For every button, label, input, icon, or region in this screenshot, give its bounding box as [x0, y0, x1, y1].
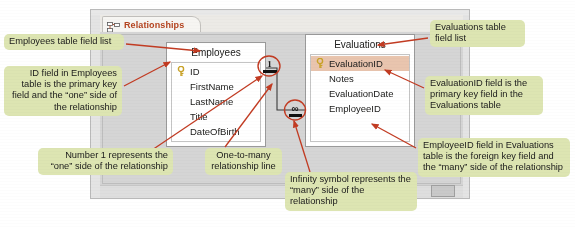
- relationships-icon: [107, 19, 120, 30]
- primary-key-icon: [316, 58, 325, 69]
- field-name: EvaluationID: [329, 58, 383, 69]
- field-list-title-evaluations: Evaluations: [306, 35, 414, 54]
- field-row-evaluationdate[interactable]: EvaluationDate: [311, 86, 409, 101]
- field-name: DateOfBirth: [190, 126, 240, 137]
- field-row-employeeid[interactable]: EmployeeID: [311, 101, 409, 116]
- field-name: Notes: [329, 73, 354, 84]
- field-row-dateofbirth[interactable]: DateOfBirth: [172, 124, 260, 139]
- field-row-evaluationid[interactable]: EvaluationID: [311, 56, 409, 71]
- field-list-evaluations[interactable]: Evaluations EvaluationID Notes: [305, 34, 415, 147]
- field-name: FirstName: [190, 81, 234, 92]
- callout-evaluations-field-list: Evaluations table field list: [430, 20, 525, 47]
- callout-evaluation-id-field: EvaluationID field is the primary key fi…: [425, 76, 543, 115]
- field-list-employees[interactable]: Employees ID FirstName: [166, 42, 266, 147]
- tab-label: Relationships: [124, 20, 184, 30]
- one-symbol-glyph: 1: [267, 60, 272, 69]
- tab-relationships[interactable]: Relationships: [102, 16, 201, 32]
- field-list-body-evaluations: EvaluationID Notes EvaluationDate Employ…: [310, 54, 410, 142]
- callout-id-field: ID field in Employees table is the prima…: [4, 66, 122, 116]
- callout-infinity-symbol: Infinity symbol represents the “many” si…: [285, 172, 417, 211]
- many-side-symbol: ∞: [288, 104, 302, 117]
- callout-employee-id-field: EmployeeID field in Evaluations table is…: [418, 138, 570, 177]
- callout-employees-field-list: Employees table field list: [4, 34, 124, 50]
- screenshot-root: Relationships Employees: [0, 0, 575, 227]
- field-list-title-employees: Employees: [167, 43, 265, 62]
- primary-key-icon: [177, 66, 186, 77]
- field-name: EmployeeID: [329, 103, 381, 114]
- field-row-id[interactable]: ID: [172, 64, 260, 79]
- field-row-notes[interactable]: Notes: [311, 71, 409, 86]
- field-row-lastname[interactable]: LastName: [172, 94, 260, 109]
- field-name: EvaluationDate: [329, 88, 393, 99]
- field-name: ID: [190, 66, 200, 77]
- infinity-symbol-glyph: ∞: [291, 104, 298, 113]
- infinity-symbol-bar: [289, 114, 302, 117]
- horizontal-scrollbar-thumb[interactable]: [431, 185, 455, 197]
- document-tab-strip: Relationships: [100, 15, 463, 33]
- callout-number-one: Number 1 represents the “one” side of th…: [38, 148, 173, 175]
- field-name: Title: [190, 111, 208, 122]
- callout-one-to-many-line: One-to-many relationship line: [205, 148, 282, 175]
- field-row-title[interactable]: Title: [172, 109, 260, 124]
- field-row-firstname[interactable]: FirstName: [172, 79, 260, 94]
- field-name: LastName: [190, 96, 233, 107]
- field-list-body-employees: ID FirstName LastName Title DateOfBirth: [171, 62, 261, 142]
- one-symbol-bar: [263, 70, 277, 73]
- one-side-symbol: 1: [262, 60, 277, 74]
